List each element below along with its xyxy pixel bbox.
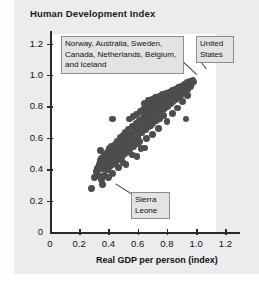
callout-united-states: United States <box>196 36 234 63</box>
y-tick-mark <box>47 75 53 76</box>
scatter-point <box>164 118 171 125</box>
y-tick-label: 0.6 <box>17 132 43 143</box>
x-tick-label: 1.0 <box>184 238 208 249</box>
y-tick-mark <box>47 201 53 202</box>
y-tick-label: 1.2 <box>17 38 43 49</box>
scatter-point <box>169 110 176 117</box>
x-tick-label: 0.8 <box>155 238 179 249</box>
scatter-point <box>109 116 116 123</box>
y-axis-line <box>50 31 52 234</box>
y-tick-label: 0.4 <box>17 163 43 174</box>
scatter-point <box>149 131 156 138</box>
scatter-point <box>97 147 104 154</box>
x-tick-mark <box>79 229 80 235</box>
x-tick-label: 0 <box>38 238 62 249</box>
scatter-point <box>184 92 191 99</box>
y-tick-mark <box>47 138 53 139</box>
y-tick-mark <box>47 44 53 45</box>
x-tick-label: 0.2 <box>67 238 91 249</box>
y-tick-mark <box>47 106 53 107</box>
figure-container: Human Development Index 00.20.40.60.81.0… <box>0 0 259 281</box>
y-tick-mark <box>47 169 53 170</box>
chart-title: Human Development Index <box>30 8 155 19</box>
x-tick-mark <box>138 229 139 235</box>
x-tick-label: 0.6 <box>126 238 150 249</box>
scatter-point <box>120 159 127 166</box>
x-tick-label: 0.4 <box>96 238 120 249</box>
page-left-margin <box>0 0 14 281</box>
scatter-point <box>179 98 186 105</box>
y-tick-label: 0 <box>17 226 43 237</box>
scatter-point <box>155 125 162 132</box>
scatter-point <box>141 145 148 152</box>
x-tick-label: 1.2 <box>213 238 237 249</box>
x-tick-mark <box>167 229 168 235</box>
y-tick-label: 1.0 <box>17 69 43 80</box>
x-tick-mark <box>108 229 109 235</box>
page-bottom-margin <box>0 274 259 281</box>
x-tick-mark <box>225 229 226 235</box>
x-axis-label: Real GDP per person (index) <box>96 255 218 265</box>
callout-top-nations: Norway, Australia, Sweden, Canada, Nethe… <box>61 36 184 74</box>
y-tick-label: 0.8 <box>17 100 43 111</box>
callout-sierra-leone: Sierra Leone <box>131 192 170 219</box>
x-tick-mark <box>196 229 197 235</box>
y-tick-label: 0.2 <box>17 195 43 206</box>
